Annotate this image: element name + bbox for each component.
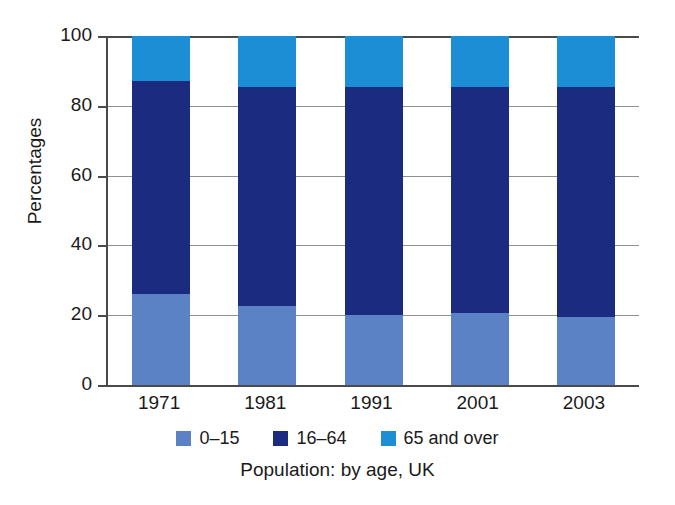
chart-legend: 0–1516–6465 and over bbox=[0, 428, 675, 449]
x-tick-label-1971: 1971 bbox=[109, 392, 209, 414]
y-tick-mark-20 bbox=[98, 315, 107, 317]
bar-segment-1981-16–64[interactable] bbox=[238, 87, 296, 306]
legend-item-0–15[interactable]: 0–15 bbox=[176, 428, 239, 449]
y-tick-mark-0 bbox=[98, 385, 107, 387]
bar-segment-1991-0–15[interactable] bbox=[345, 315, 403, 385]
legend-item-16–64[interactable]: 16–64 bbox=[273, 428, 346, 449]
y-tick-mark-40 bbox=[98, 245, 107, 247]
x-tick-label-2003: 2003 bbox=[534, 392, 634, 414]
x-tick-label-2001: 2001 bbox=[428, 392, 528, 414]
legend-swatch-65-and-over bbox=[381, 431, 396, 446]
chart-caption: Population: by age, UK bbox=[0, 459, 675, 481]
chart-figure: Percentages 020406080100 197119811991200… bbox=[0, 0, 675, 505]
bar-segment-1971-16–64[interactable] bbox=[132, 81, 190, 294]
plot-area bbox=[106, 36, 639, 387]
bar-1981[interactable] bbox=[238, 36, 296, 385]
y-tick-label-20: 20 bbox=[32, 304, 92, 323]
legend-label: 0–15 bbox=[199, 428, 239, 449]
bar-2003[interactable] bbox=[557, 36, 615, 385]
y-tick-label-0: 0 bbox=[32, 374, 92, 393]
bar-2001[interactable] bbox=[451, 36, 509, 385]
bar-segment-2003-65-and-over[interactable] bbox=[557, 36, 615, 87]
legend-swatch-0-15 bbox=[176, 431, 191, 446]
legend-label: 16–64 bbox=[296, 428, 346, 449]
bar-segment-1971-65-and-over[interactable] bbox=[132, 36, 190, 81]
bar-segment-1991-65-and-over[interactable] bbox=[345, 36, 403, 87]
bar-segment-1991-16–64[interactable] bbox=[345, 87, 403, 316]
y-axis-tick-labels: 020406080100 bbox=[30, 36, 92, 385]
y-tick-label-80: 80 bbox=[32, 95, 92, 114]
bar-segment-2001-65-and-over[interactable] bbox=[451, 36, 509, 87]
y-tick-label-100: 100 bbox=[32, 25, 92, 44]
bar-segment-1981-0–15[interactable] bbox=[238, 306, 296, 385]
x-tick-label-1981: 1981 bbox=[215, 392, 315, 414]
legend-swatch-16-64 bbox=[273, 431, 288, 446]
x-tick-label-1991: 1991 bbox=[322, 392, 422, 414]
legend-label: 65 and over bbox=[404, 428, 499, 449]
y-tick-mark-60 bbox=[98, 176, 107, 178]
bar-segment-2001-16–64[interactable] bbox=[451, 87, 509, 314]
y-tick-label-40: 40 bbox=[32, 234, 92, 253]
bar-segment-2003-0–15[interactable] bbox=[557, 317, 615, 385]
bar-segment-2003-16–64[interactable] bbox=[557, 87, 615, 317]
legend-item-65-and-over[interactable]: 65 and over bbox=[381, 428, 499, 449]
y-tick-label-60: 60 bbox=[32, 165, 92, 184]
y-tick-mark-100 bbox=[98, 36, 107, 38]
bar-1991[interactable] bbox=[345, 36, 403, 385]
bar-segment-1971-0–15[interactable] bbox=[132, 294, 190, 385]
bar-segment-2001-0–15[interactable] bbox=[451, 313, 509, 385]
x-axis-tick-labels: 19711981199120012003 bbox=[106, 392, 637, 420]
bar-segment-1981-65-and-over[interactable] bbox=[238, 36, 296, 87]
y-tick-mark-80 bbox=[98, 106, 107, 108]
bar-1971[interactable] bbox=[132, 36, 190, 385]
